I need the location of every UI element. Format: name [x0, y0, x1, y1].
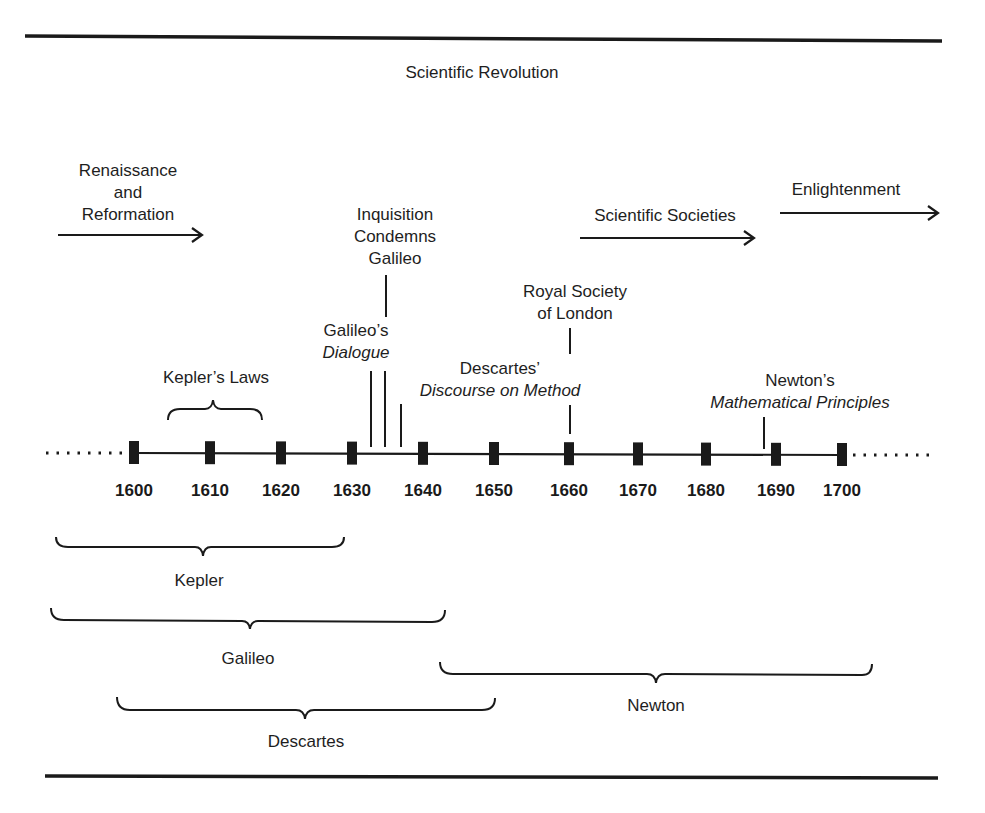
arrow-scientific-societies [580, 231, 754, 245]
tick-1680 [701, 443, 711, 466]
year-label-1610: 1610 [191, 481, 229, 501]
tick-1640 [418, 442, 428, 465]
top-rule [25, 36, 942, 41]
label-newton-principles: Newton’s Mathematical Principles [710, 370, 890, 414]
tick-1690 [771, 443, 781, 466]
label-scientific-societies: Scientific Societies [594, 205, 736, 227]
tick-1600 [129, 441, 139, 464]
label-kepler: Kepler [174, 570, 223, 592]
year-label-1620: 1620 [262, 481, 300, 501]
label-descartes: Descartes [268, 731, 345, 753]
tick-1650 [489, 442, 499, 465]
brace-galileo [51, 608, 445, 629]
year-label-1670: 1670 [619, 481, 657, 501]
bottom-rule [45, 776, 938, 778]
label-kepler-laws: Kepler’s Laws [163, 367, 269, 389]
diagram-title: Scientific Revolution [405, 62, 558, 84]
label-enlightenment: Enlightenment [792, 179, 901, 201]
label-royal-society: Royal Society of London [523, 281, 627, 325]
year-label-1630: 1630 [333, 481, 371, 501]
year-label-1700: 1700 [823, 481, 861, 501]
brace-kepler-laws [168, 400, 262, 420]
label-galileo: Galileo [222, 648, 275, 670]
label-inquisition: Inquisition Condemns Galileo [354, 204, 436, 270]
year-label-1690: 1690 [757, 481, 795, 501]
tick-1660 [564, 442, 574, 465]
tick-1610 [205, 441, 215, 464]
year-label-1650: 1650 [475, 481, 513, 501]
timeline-axis [134, 453, 842, 455]
tick-1620 [276, 441, 286, 464]
label-newton: Newton [627, 695, 685, 717]
label-galileo-dialogue: Galileo’s Dialogue [322, 320, 389, 364]
arrow-renaissance [58, 228, 202, 242]
year-label-1660: 1660 [550, 481, 588, 501]
tick-1630 [347, 442, 357, 465]
brace-descartes [117, 697, 495, 719]
year-label-1680: 1680 [687, 481, 725, 501]
brace-newton [440, 662, 872, 683]
year-label-1640: 1640 [404, 481, 442, 501]
label-descartes-discourse: Descartes’ Discourse on Method [420, 358, 581, 402]
tick-1670 [633, 442, 643, 465]
tick-1700 [837, 443, 847, 466]
arrow-enlightenment [780, 206, 938, 220]
brace-kepler [56, 537, 344, 556]
label-renaissance: Renaissance and Reformation [79, 160, 177, 226]
year-label-1600: 1600 [115, 481, 153, 501]
